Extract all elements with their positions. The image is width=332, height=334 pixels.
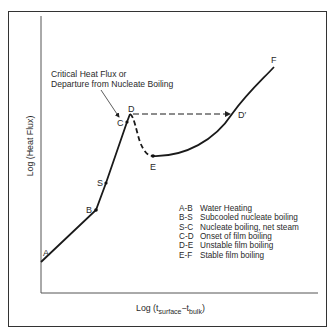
annotation-line-1: Critical Heat Flux or bbox=[51, 69, 127, 79]
label-point-a: A bbox=[43, 248, 49, 258]
legend-code: B-S bbox=[179, 213, 193, 222]
legend-desc: Nucleate boiling, net steam bbox=[200, 223, 299, 232]
curve-a-to-d bbox=[41, 114, 130, 262]
x-label-prefix: Log (t bbox=[136, 303, 159, 313]
legend: A-B Water Heating B-S Subcooled nucleate… bbox=[179, 204, 299, 260]
label-point-dprime: D′ bbox=[238, 110, 246, 120]
legend-desc: Water Heating bbox=[200, 204, 252, 213]
legend-code: E-F bbox=[179, 251, 192, 260]
label-point-e: E bbox=[150, 162, 156, 172]
boiling-curve-diagram: A B S C D E F D′ Critical Heat Flux or D… bbox=[0, 0, 332, 334]
point-s-dot bbox=[104, 181, 107, 184]
x-label-sub-surface: surface bbox=[159, 308, 182, 315]
label-point-c: C bbox=[117, 118, 124, 128]
point-e-dot bbox=[151, 154, 155, 158]
x-label-sub-bulk: bulk bbox=[189, 308, 202, 315]
legend-code: D-E bbox=[179, 241, 194, 250]
annotation-pointer bbox=[101, 90, 119, 117]
curve-d-to-e-dashed bbox=[130, 114, 153, 156]
legend-code: S-C bbox=[179, 223, 193, 232]
x-axis-label: Log (tsurface−tbulk) bbox=[136, 303, 205, 315]
label-point-b: B bbox=[86, 205, 92, 215]
label-point-f: F bbox=[271, 55, 277, 65]
legend-desc: Stable film boiling bbox=[200, 251, 265, 260]
label-point-s: S bbox=[97, 178, 103, 188]
diagram-canvas: A B S C D E F D′ Critical Heat Flux or D… bbox=[0, 0, 332, 334]
y-axis-label: Log (Heat Flux) bbox=[25, 116, 35, 177]
label-point-d: D bbox=[128, 104, 135, 114]
point-b-dot bbox=[94, 208, 98, 212]
legend-code: C-D bbox=[179, 232, 194, 241]
legend-desc: Onset of film boiling bbox=[200, 232, 272, 241]
point-c-dot bbox=[125, 120, 128, 123]
legend-desc: Unstable film boiling bbox=[200, 241, 274, 250]
legend-desc: Subcooled nucleate boiling bbox=[200, 213, 298, 222]
annotation-line-2: Departure from Nucleate Boiling bbox=[51, 79, 174, 89]
legend-code: A-B bbox=[179, 204, 193, 213]
x-label-suffix: ) bbox=[202, 303, 205, 313]
